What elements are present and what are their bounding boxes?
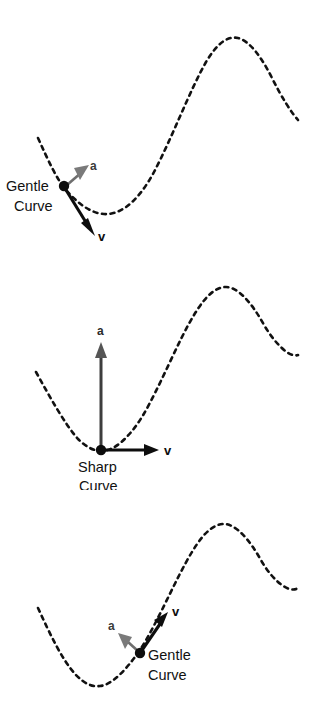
panel-3-canvas: v a Gentle Curve: [0, 490, 325, 722]
acceleration-label: a: [97, 324, 104, 338]
acceleration-label: a: [108, 619, 115, 633]
caption-line-2: Curve: [14, 198, 53, 214]
velocity-label: v: [164, 443, 172, 458]
curve-point-marker: [59, 181, 69, 191]
panel-1-canvas: a v Gentle Curve: [0, 0, 325, 245]
caption-line-2: Curve: [79, 478, 118, 490]
acceleration-label: a: [90, 159, 97, 173]
caption-line-1: Sharp: [78, 459, 117, 475]
caption-line-1: Gentle: [6, 178, 49, 194]
sine-curve-path: [38, 38, 298, 214]
panel-gentle-curve-descending: a v Gentle Curve: [0, 0, 325, 245]
panel-sharp-curve-valley: a v Sharp Curve: [0, 245, 325, 490]
physics-vector-diagram: a v Gentle Curve a v Shar: [0, 0, 325, 722]
panel-gentle-curve-ascending: v a Gentle Curve: [0, 490, 325, 722]
panel-2-canvas: a v Sharp Curve: [0, 245, 325, 490]
caption-line-2: Curve: [148, 667, 187, 683]
acceleration-arrowhead: [118, 633, 132, 649]
velocity-vector-shaft: [66, 190, 87, 224]
velocity-label: v: [172, 604, 180, 619]
velocity-arrowhead: [81, 218, 95, 236]
acceleration-arrowhead: [95, 342, 107, 358]
velocity-label: v: [98, 229, 106, 244]
sine-curve-path: [36, 287, 298, 451]
caption-line-1: Gentle: [148, 647, 191, 663]
curve-point-marker: [96, 445, 106, 455]
velocity-arrowhead: [144, 444, 159, 456]
curve-point-marker: [135, 648, 145, 658]
